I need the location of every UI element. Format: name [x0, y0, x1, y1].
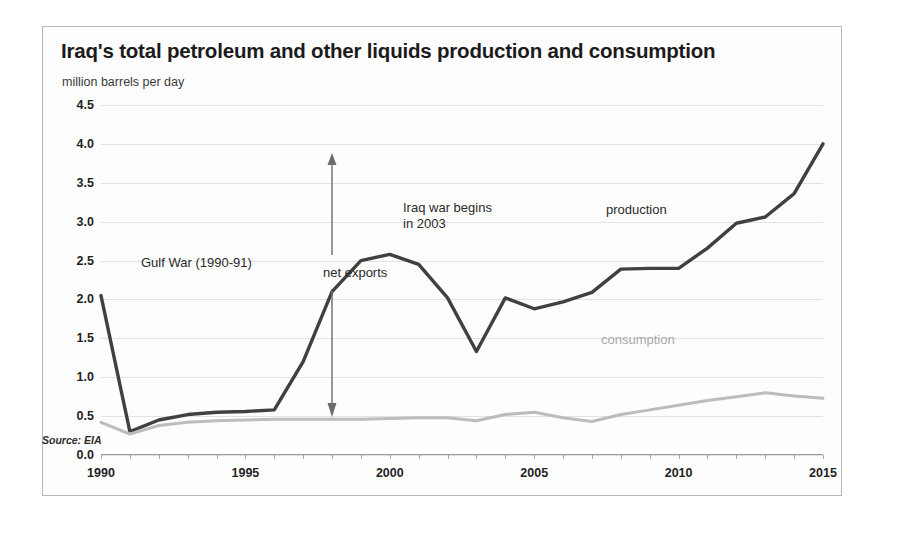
- chart-title: Iraq's total petroleum and other liquids…: [61, 39, 715, 63]
- y-axis-tick-label: 1.5: [77, 331, 94, 345]
- annotation-production-label: production: [606, 202, 667, 218]
- y-axis-tick-label: 0.0: [77, 448, 94, 462]
- annotation-iraq-war: Iraq war begins in 2003: [403, 200, 492, 233]
- x-axis-tick-mark: [823, 455, 824, 459]
- annotation-consumption-label: consumption: [601, 332, 675, 348]
- x-axis-tick-mark: [563, 455, 564, 459]
- x-axis-tick-mark: [621, 455, 622, 459]
- x-axis-tick-mark: [765, 455, 766, 459]
- x-axis-tick-mark: [534, 455, 535, 459]
- x-axis-tick-mark: [476, 455, 477, 459]
- source-note: Source: EIA: [42, 434, 102, 446]
- x-axis-tick-mark: [505, 455, 506, 459]
- annotation-gulf-war: Gulf War (1990-91): [141, 255, 252, 271]
- x-axis-tick-mark: [736, 455, 737, 459]
- x-axis-tick-mark: [159, 455, 160, 459]
- gridline: [101, 455, 823, 456]
- x-axis-tick-label: 2005: [520, 466, 548, 480]
- y-axis-tick-label: 2.0: [77, 292, 94, 306]
- x-axis-tick-mark: [448, 455, 449, 459]
- y-axis-tick-label: 0.5: [77, 409, 94, 423]
- x-axis-tick-mark: [419, 455, 420, 459]
- plot-area: 4.54.03.53.02.52.01.51.00.50.0 199019952…: [101, 105, 823, 455]
- series-line-production: [101, 144, 823, 432]
- x-axis-tick-mark: [332, 455, 333, 459]
- y-axis-tick-label: 4.5: [77, 98, 94, 112]
- x-axis-tick-label: 2010: [665, 466, 693, 480]
- x-axis-tick-mark: [188, 455, 189, 459]
- y-axis-tick-label: 3.5: [77, 176, 94, 190]
- x-axis-tick-mark: [707, 455, 708, 459]
- x-axis-tick-mark: [303, 455, 304, 459]
- x-axis-tick-label: 1995: [231, 466, 259, 480]
- y-axis-tick-label: 3.0: [77, 215, 94, 229]
- x-axis-tick-mark: [101, 455, 102, 459]
- x-axis-tick-mark: [679, 455, 680, 459]
- x-axis-tick-mark: [130, 455, 131, 459]
- x-axis-tick-label: 2000: [376, 466, 404, 480]
- x-axis-tick-mark: [650, 455, 651, 459]
- x-axis-tick-mark: [390, 455, 391, 459]
- x-axis-tick-mark: [274, 455, 275, 459]
- y-axis-tick-label: 4.0: [77, 137, 94, 151]
- y-axis-unit-label: million barrels per day: [62, 75, 184, 89]
- x-axis-tick-mark: [794, 455, 795, 459]
- x-axis-tick-mark: [217, 455, 218, 459]
- x-axis-tick-mark: [245, 455, 246, 459]
- y-axis-tick-label: 2.5: [77, 254, 94, 268]
- x-axis-tick-label: 1990: [87, 466, 115, 480]
- chart-lines: [101, 105, 823, 455]
- y-axis-tick-label: 1.0: [77, 370, 94, 384]
- net-exports-arrow: [328, 153, 337, 417]
- x-axis-tick-mark: [361, 455, 362, 459]
- annotation-net-exports-label: net exports: [323, 265, 387, 281]
- chart-figure: Iraq's total petroleum and other liquids…: [42, 26, 842, 496]
- x-axis-tick-label: 2015: [809, 466, 837, 480]
- x-axis-tick-mark: [592, 455, 593, 459]
